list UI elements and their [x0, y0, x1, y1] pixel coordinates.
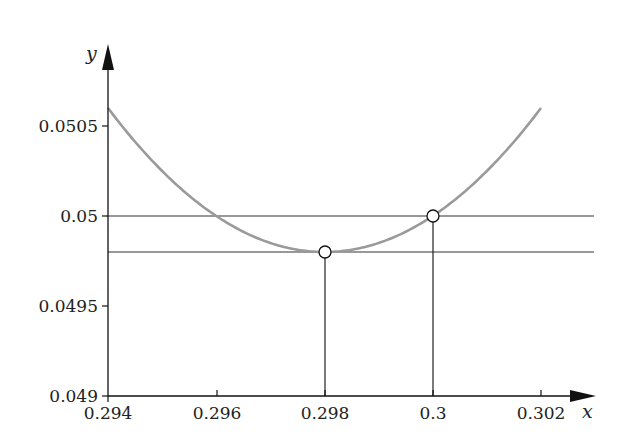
- marker-intersection: [427, 210, 439, 222]
- y-tick-label: 0.0495: [39, 296, 98, 316]
- x-tick-label: 0.302: [517, 403, 566, 423]
- y-tick-label: 0.0505: [39, 116, 98, 136]
- x-tick-label: 0.298: [301, 403, 350, 423]
- x-axis-label: x: [582, 400, 593, 422]
- parabola-curve: [108, 108, 541, 252]
- y-axis-label: y: [85, 42, 97, 64]
- y-axis-arrow-icon: [102, 44, 114, 70]
- x-tick-label: 0.294: [84, 403, 133, 423]
- y-tick-label: 0.05: [60, 206, 98, 226]
- x-tick-label: 0.3: [419, 403, 446, 423]
- y-ticks: [102, 126, 108, 396]
- marker-min: [319, 246, 331, 258]
- chart-canvas: 0.049 0.0495 0.05 0.0505 0.294 0.296 0.2…: [0, 0, 624, 447]
- x-tick-label: 0.296: [193, 403, 242, 423]
